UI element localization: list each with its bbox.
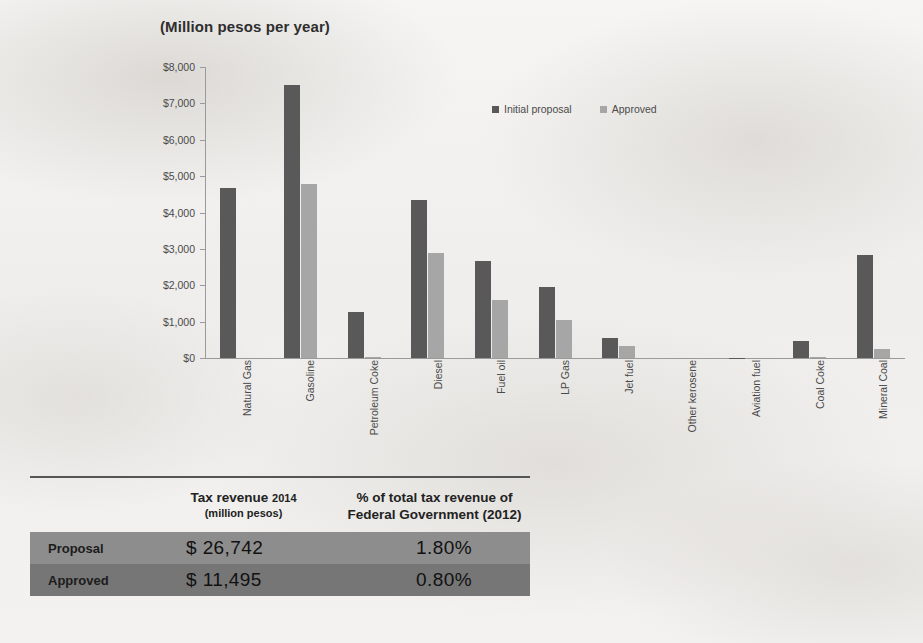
- table-header-percent-line1: % of total tax revenue of: [339, 490, 530, 507]
- y-axis-tick: [200, 358, 205, 359]
- table-cell-proposal-revenue: $ 26,742: [148, 537, 358, 559]
- x-axis-line: [205, 358, 905, 359]
- table-cell-proposal-percent: 1.80%: [358, 537, 530, 559]
- x-axis-category-labels: Natural GasGasolinePetroleum CokeDieselF…: [205, 360, 905, 480]
- bar-approved: [492, 300, 508, 358]
- x-axis-label: Natural Gas: [241, 360, 253, 416]
- table-header-tax-revenue-year: 2014: [272, 492, 296, 504]
- x-axis-label: Petroleum Coke: [368, 360, 380, 435]
- bar-group: [857, 67, 890, 358]
- table-header-tax-revenue: Tax revenue 2014 (million pesos): [148, 490, 339, 523]
- table-row-label-proposal: Proposal: [30, 541, 148, 556]
- y-axis-tick-label: $0: [151, 352, 195, 364]
- bar-initial-proposal: [602, 338, 618, 358]
- y-axis-tick-label: $2,000: [151, 279, 195, 291]
- bar-approved: [365, 357, 381, 358]
- bar-group: [220, 67, 253, 358]
- x-axis-label: Aviation fuel: [750, 360, 762, 417]
- table-row-label-approved: Approved: [30, 573, 148, 588]
- x-axis-label: Coal Coke: [814, 360, 826, 409]
- bar-initial-proposal: [857, 255, 873, 358]
- table-cell-approved-percent: 0.80%: [358, 569, 530, 591]
- bar-approved: [301, 184, 317, 358]
- bar-group: [411, 67, 444, 358]
- x-axis-label: Diesel: [432, 360, 444, 389]
- x-axis-label: Fuel oil: [495, 360, 507, 394]
- x-axis-label: Other kerosene: [686, 360, 698, 432]
- y-axis-tick-label: $7,000: [151, 97, 195, 109]
- table-header-percent-line2: Federal Government (2012): [339, 507, 530, 524]
- table-header-tax-revenue-main: Tax revenue: [190, 490, 268, 505]
- bar-group: [284, 67, 317, 358]
- y-axis-tick-label: $4,000: [151, 207, 195, 219]
- bar-initial-proposal: [539, 287, 555, 358]
- bar-approved: [556, 320, 572, 358]
- bar-initial-proposal: [348, 312, 364, 358]
- bar-group: [729, 67, 762, 358]
- x-axis-label: Mineral Coal: [877, 360, 889, 419]
- table-cell-approved-revenue: $ 11,495: [148, 569, 358, 591]
- bar-group: [793, 67, 826, 358]
- bar-initial-proposal: [220, 188, 236, 358]
- bar-group: [602, 67, 635, 358]
- bar-approved: [810, 357, 826, 358]
- summary-table: Tax revenue 2014 (million pesos) % of to…: [30, 476, 530, 596]
- bar-group: [666, 67, 699, 358]
- bar-approved: [619, 346, 635, 358]
- y-axis-tick-label: $1,000: [151, 316, 195, 328]
- bar-initial-proposal: [475, 261, 491, 358]
- bar-approved: [428, 253, 444, 358]
- table-row: Proposal $ 26,742 1.80%: [30, 532, 530, 564]
- x-axis-label: Gasoline: [304, 360, 316, 401]
- y-axis-tick-label: $3,000: [151, 243, 195, 255]
- y-axis-tick-label: $5,000: [151, 170, 195, 182]
- bar-initial-proposal: [411, 200, 427, 358]
- bar-group: [348, 67, 381, 358]
- x-axis-label: Jet fuel: [623, 360, 635, 394]
- bar-chart: $8,000$7,000$6,000$5,000$4,000$3,000$2,0…: [0, 0, 923, 480]
- bar-group: [475, 67, 508, 358]
- bar-group: [539, 67, 572, 358]
- bar-initial-proposal: [284, 85, 300, 358]
- bar-approved: [874, 349, 890, 358]
- y-axis-tick-label: $8,000: [151, 61, 195, 73]
- table-header-row: Tax revenue 2014 (million pesos) % of to…: [30, 478, 530, 532]
- x-axis-label: LP Gas: [559, 360, 571, 395]
- bar-initial-proposal: [793, 341, 809, 358]
- table-header-percent-total: % of total tax revenue of Federal Govern…: [339, 490, 530, 523]
- table-header-tax-revenue-sub: (million pesos): [148, 507, 339, 521]
- y-axis-tick-label: $6,000: [151, 134, 195, 146]
- table-row: Approved $ 11,495 0.80%: [30, 564, 530, 596]
- bars-layer: [205, 67, 905, 358]
- table-header-blank-cell: [30, 490, 148, 523]
